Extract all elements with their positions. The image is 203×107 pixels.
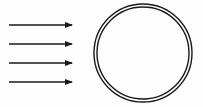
diagram-svg (0, 0, 203, 107)
incoming-arrows-group (9, 25, 72, 82)
outer-circle-ring (94, 4, 192, 102)
diagram-canvas: Four parallel horizontal arrows pointing… (0, 0, 203, 107)
inner-circle-ring (97, 7, 189, 99)
